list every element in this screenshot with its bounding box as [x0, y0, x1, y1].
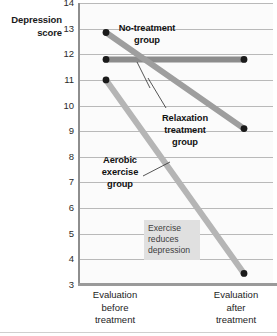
y-axis-tick-10: 10 [52, 100, 74, 111]
annotation-aerobic-exercise-group: Aerobicexercisegroup [92, 154, 148, 190]
y-axis-tick-6: 6 [52, 202, 74, 213]
depression-score-line-chart: Depression score 14131211109876543 No-tr… [0, 0, 277, 336]
y-axis-tick-14: 14 [52, 0, 74, 8]
y-axis-line [78, 3, 80, 285]
y-axis-tick-3: 3 [52, 279, 74, 290]
data-point-2-0 [103, 77, 110, 84]
y-axis-tick-13: 13 [52, 23, 74, 34]
data-point-2-1 [241, 270, 248, 277]
y-axis-tick-4: 4 [52, 253, 74, 264]
y-axis-tick-11: 11 [52, 74, 74, 85]
data-point-0-1 [241, 56, 248, 63]
y-axis-tick-7: 7 [52, 176, 74, 187]
annotation-relaxation-treatment-group: Relaxationtreatmentgroup [148, 112, 222, 148]
x-axis-label-before-treatment: Evaluationbeforetreatment [72, 289, 158, 327]
y-axis-tick-9: 9 [52, 125, 74, 136]
leader-line-0 [137, 62, 150, 88]
y-axis-tick-8: 8 [52, 151, 74, 162]
bottom-divider [0, 332, 277, 333]
x-axis-line [78, 283, 277, 286]
x-axis-label-after-treatment: Evaluationaftertreatment [196, 289, 276, 327]
y-axis-tick-12: 12 [52, 48, 74, 59]
data-point-1-1 [241, 125, 248, 132]
caption-exercise-reduces-depression: Exercisereducesdepression [144, 220, 200, 260]
y-axis-tick-labels: 14131211109876543 [52, 3, 74, 285]
y-axis-tick-5: 5 [52, 228, 74, 239]
data-point-0-0 [103, 56, 110, 63]
annotation-no-treatment-group: No-treatmentgroup [108, 22, 186, 46]
leader-line-1 [148, 78, 166, 108]
